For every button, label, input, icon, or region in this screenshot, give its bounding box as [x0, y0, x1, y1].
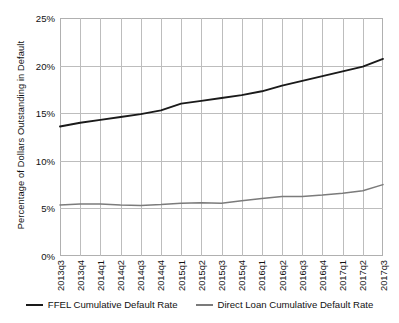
- x-axis-tick-label: 2015q1: [177, 260, 187, 291]
- legend-label: Direct Loan Cumulative Default Rate: [218, 299, 374, 310]
- y-axis-title: Percentage of Dollars Outstanding in Def…: [16, 10, 26, 260]
- legend-item-2[interactable]: Direct Loan Cumulative Default Rate: [196, 299, 374, 310]
- chart-container: Percentage of Dollars Outstanding in Def…: [0, 0, 399, 323]
- y-axis-tick-label: 5%: [41, 203, 55, 214]
- x-axis-tick-label: 2015q2: [197, 260, 207, 291]
- cropped-header-strip: [0, 0, 399, 7]
- x-axis-tick-label: 2014q4: [156, 260, 166, 291]
- legend-label: FFEL Cumulative Default Rate: [48, 299, 178, 310]
- x-axis-tick-label: 2013q3: [56, 260, 66, 291]
- y-axis-tick-label: 15%: [36, 108, 55, 119]
- x-axis-tick-label: 2017q2: [358, 260, 368, 291]
- legend-line-swatch-icon: [196, 304, 213, 306]
- y-axis-tick-label: 0%: [41, 251, 55, 262]
- x-axis-tick-label: 2014q2: [116, 260, 126, 291]
- x-axis-tick-label: 2015q4: [237, 260, 247, 291]
- x-axis-tick-label: 2017q3: [379, 260, 389, 291]
- x-axis-tick-label: 2016q2: [278, 260, 288, 291]
- legend-item-1[interactable]: FFEL Cumulative Default Rate: [26, 299, 178, 310]
- x-axis-tick-label: 2015q3: [217, 260, 227, 291]
- data-series-layer: [60, 18, 383, 256]
- x-axis-tick-label: 2017q1: [338, 260, 348, 291]
- x-axis-tick-label: 2014q1: [96, 260, 106, 291]
- y-axis-tick-label: 20%: [36, 60, 55, 71]
- x-axis-tick-label: 2014q3: [136, 260, 146, 291]
- x-axis-tick-label: 2013q4: [76, 260, 86, 291]
- plot-area: 0%5%10%15%20%25% 2013q32013q42014q12014q…: [60, 18, 383, 256]
- x-axis-tick-label: 2016q4: [318, 260, 328, 291]
- series-line-1: [60, 59, 383, 127]
- y-axis-tick-label: 25%: [36, 13, 55, 24]
- x-axis-tick-label: 2016q3: [298, 260, 308, 291]
- x-axis-tick-label: 2016q1: [257, 260, 267, 291]
- chart-legend: FFEL Cumulative Default RateDirect Loan …: [0, 299, 399, 310]
- y-axis-tick-label: 10%: [36, 155, 55, 166]
- series-line-2: [60, 185, 383, 206]
- legend-line-swatch-icon: [26, 304, 43, 306]
